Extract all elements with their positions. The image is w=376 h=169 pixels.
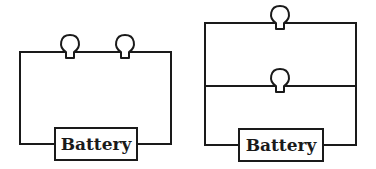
circuit-diagram: Battery Battery [0, 0, 376, 169]
bulb-icon [61, 35, 79, 58]
bulb-icon [271, 6, 289, 29]
battery: Battery [55, 128, 137, 160]
bulb-icon [116, 35, 134, 58]
battery-label: Battery [246, 135, 318, 155]
parallel-circuit: Battery [205, 6, 356, 161]
series-circuit: Battery [20, 35, 171, 160]
bulb-icon [271, 69, 289, 92]
battery-label: Battery [61, 134, 133, 154]
battery: Battery [239, 129, 323, 161]
